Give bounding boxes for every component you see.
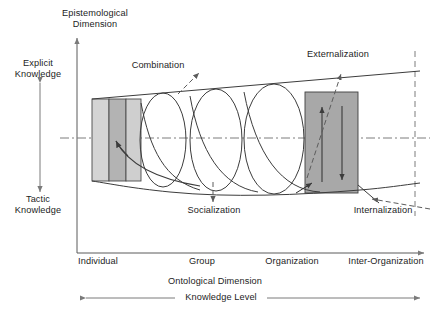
y-axis-title-line1: Epistemological [62,8,128,18]
internalization-label: Internalization [333,205,433,216]
tactic-knowledge-label: Tactic Knowledge [0,194,76,217]
spiral-ellipse-3 [244,84,304,194]
individual-block-2 [109,99,126,181]
x-tick-individual: Individual [62,256,134,267]
tactic-knowledge-line2: Knowledge [15,205,61,215]
y-axis-title: Epistemological Dimension [36,8,154,31]
spiral-sweep-1 [141,103,200,190]
y-axis-title-line2: Dimension [73,19,117,29]
x-tick-inter-organization: Inter-Organization [334,256,438,267]
spiral-ellipse-1 [140,93,186,187]
externalization-label: Externalization [288,49,388,60]
x-tick-group: Group [172,256,232,267]
knowledge-level-label: Knowledge Level [176,292,266,303]
internalization-leader [358,185,379,203]
individual-block-1 [92,99,109,181]
explicit-knowledge-line2: Knowledge [15,69,61,79]
x-axis-title: Ontological Dimension [140,276,290,287]
tactic-knowledge-line1: Tactic [26,194,50,204]
spiral-ellipse-2 [190,89,242,191]
organization-block [305,92,358,193]
explicit-knowledge-label: Explicit Knowledge [0,58,76,81]
spiral-sweeps [141,92,320,192]
individual-block-group [92,99,141,181]
x-tick-organization: Organization [251,256,333,267]
combination-label: Combination [115,60,201,71]
socialization-label: Socialization [171,205,257,216]
diagram-canvas [0,0,438,317]
knowledge-spiral-diagram: Epistemological Dimension Explicit Knowl… [0,0,438,317]
explicit-knowledge-line1: Explicit [23,58,53,68]
individual-block-3 [126,99,141,181]
